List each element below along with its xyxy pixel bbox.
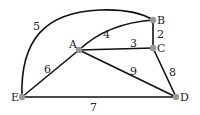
label-D: D [180,91,189,104]
edge-A-D [79,50,176,97]
edge-A-C [79,48,153,50]
label-E: E [11,91,19,104]
weight-E-B: 5 [33,20,40,33]
node-B [150,17,156,23]
label-B: B [157,14,165,27]
weight-B-C: 2 [157,28,164,41]
weighted-graph: 5 4 2 3 6 9 8 7 A B C D E [0,0,200,115]
weight-A-B: 4 [103,28,110,41]
node-C [150,45,156,51]
weight-A-D: 9 [130,65,137,78]
weight-A-E: 6 [44,63,51,76]
weight-C-D: 8 [169,66,176,79]
label-A: A [68,38,78,51]
node-D [173,94,179,100]
weight-A-C: 3 [130,37,137,50]
edge-A-B [79,20,153,50]
node-E [19,94,25,100]
weight-E-D: 7 [90,101,97,114]
label-C: C [157,42,165,55]
